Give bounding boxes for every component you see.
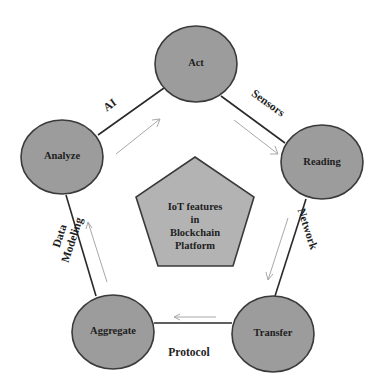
edge-label-protocol: Protocol [168, 346, 209, 358]
node-transfer: Transfer [232, 296, 314, 372]
edge-label-data-modeling: Data Modeling [46, 212, 85, 265]
center-label-line-3: Blockchain [170, 227, 220, 238]
node-reading-label: Reading [303, 156, 341, 167]
edge-label-network: Network [295, 207, 320, 252]
center-label-line-2: in [191, 214, 200, 225]
node-analyze-label: Analyze [44, 150, 81, 161]
flow-arrow-analyze-to-act [116, 119, 160, 154]
node-analyze: Analyze [21, 120, 103, 194]
iot-blockchain-cycle-diagram: AI Sensors Network Protocol Data Modelin… [0, 0, 381, 386]
node-reading: Reading [281, 125, 363, 199]
flow-arrow-act-to-reading [234, 120, 278, 154]
center-pentagon: IoT features in Blockchain Platform [136, 157, 254, 266]
center-label-line-1: IoT features [168, 201, 223, 212]
edge-label-ai: AI [101, 96, 119, 114]
flow-arrow-transfer-to-aggregate [174, 314, 216, 320]
flow-arrow-reading-to-transfer [266, 218, 288, 280]
center-label-line-4: Platform [175, 240, 215, 251]
edge-label-sensors: Sensors [250, 87, 288, 119]
node-aggregate: Aggregate [72, 295, 154, 369]
node-act: Act [155, 26, 237, 102]
node-act-label: Act [188, 57, 204, 68]
node-aggregate-label: Aggregate [90, 325, 136, 336]
node-transfer-label: Transfer [254, 327, 293, 338]
